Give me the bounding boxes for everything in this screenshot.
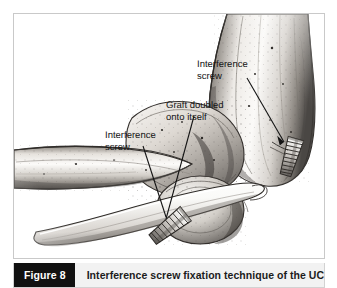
label-graft-doubled-onto-itself: Graft doubled onto itself [166,100,224,123]
label-interference-screw-humeral: Interference screw [197,59,248,82]
elbow-illustration [14,14,324,258]
figure-caption-text: Interference screw fixation technique of… [75,263,324,287]
label-interference-screw-ulnar: Interference screw [105,130,156,153]
figure-caption-bar: Figure 8 Interference screw fixation tec… [13,263,325,288]
figure-frame: Interference screw Graft doubled onto it… [13,13,325,259]
figure-root: Interference screw Graft doubled onto it… [0,0,337,288]
figure-number-tag: Figure 8 [14,263,75,287]
